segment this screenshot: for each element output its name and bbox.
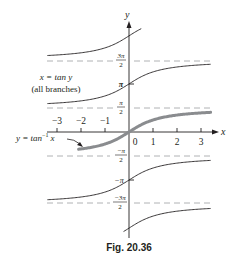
x-tick-label: 2 bbox=[175, 137, 180, 147]
branch-curve-k-2 bbox=[124, 208, 211, 231]
x-axis-label: x bbox=[220, 126, 226, 137]
x-tick-label: −2 bbox=[76, 116, 86, 126]
arctan-principal-curve bbox=[79, 112, 211, 149]
y-label-pi-over-2: π 2 bbox=[117, 99, 125, 116]
fraction-denominator: 2 bbox=[119, 108, 123, 116]
x-tick-label: −1 bbox=[100, 116, 110, 126]
x-tick-label: 1 bbox=[151, 137, 156, 147]
fraction-denominator: 2 bbox=[118, 203, 122, 211]
x-tick-label: 3 bbox=[199, 137, 204, 147]
figure-caption: Fig. 20.36 bbox=[106, 242, 152, 253]
x-tick-label: 0 bbox=[133, 137, 138, 147]
branches-label-line2: (all branches) bbox=[31, 84, 80, 94]
y-label-3pi-over-2: 3π 2 bbox=[116, 52, 126, 69]
fraction-denominator: 2 bbox=[119, 61, 123, 69]
x-axis-arrow-icon bbox=[212, 130, 219, 135]
branch-curve-k2 bbox=[47, 29, 141, 56]
y-label-neg-3pi-over-2: −3π 2 bbox=[113, 194, 127, 211]
branches-label-line1: x = tan y bbox=[39, 72, 72, 82]
y-axis-arrow-icon bbox=[127, 21, 132, 28]
y-axis-label: y bbox=[124, 9, 130, 20]
y-label-pi: π bbox=[119, 80, 124, 89]
fraction-numerator: 3π bbox=[116, 52, 125, 60]
fraction-numerator: π bbox=[119, 99, 123, 107]
fraction-denominator: 2 bbox=[119, 156, 123, 164]
y-label-neg-pi: −π bbox=[114, 176, 124, 185]
arctan-label-arrow bbox=[67, 139, 80, 144]
arctan-label-x: x bbox=[49, 133, 54, 143]
arctan-label: y = tan−1x bbox=[15, 132, 54, 143]
y-label-neg-pi-over-2: −π 2 bbox=[115, 147, 127, 164]
fraction-numerator: −π bbox=[117, 147, 126, 155]
x-tick-label: −3 bbox=[52, 116, 62, 126]
fraction-numerator: −3π bbox=[114, 194, 126, 202]
arctan-label-text: y = tan bbox=[15, 133, 43, 143]
arctan-figure: y x −3 −2 −1 0 1 2 3 3π 2 π 2 −π 2 −3π 2… bbox=[0, 0, 229, 256]
arctan-label-superscript: −1 bbox=[42, 132, 48, 138]
